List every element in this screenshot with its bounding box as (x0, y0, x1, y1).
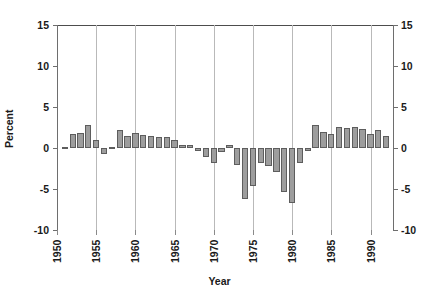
y-axis-label-right-0: 0 (401, 143, 407, 154)
bar-1972 (226, 145, 232, 148)
bar-1960 (132, 133, 138, 148)
x-tick-1990 (371, 230, 372, 235)
y-axis-label-left-5: 5 (21, 102, 49, 113)
x-tick-1975 (253, 230, 254, 235)
bar-1971 (218, 148, 224, 152)
y-tick-left-5 (53, 107, 58, 108)
y-axis-label-right-15: 15 (401, 20, 413, 31)
bar-1951 (62, 147, 68, 149)
zero-baseline (57, 25, 394, 26)
bar-1966 (179, 145, 185, 148)
bar-1973 (234, 148, 240, 165)
bar-1988 (352, 127, 358, 148)
bar-1965 (171, 140, 177, 148)
y-axis-label-left--5: -5 (21, 184, 49, 195)
x-tick-1965 (175, 230, 176, 235)
bar-1954 (85, 125, 91, 148)
bar-1967 (187, 145, 193, 148)
bar-1975 (250, 148, 256, 186)
y-tick-right--5 (393, 189, 398, 190)
gridline-1965 (175, 25, 176, 230)
y-tick-left-10 (53, 66, 58, 67)
bar-1981 (297, 148, 303, 163)
bar-1958 (117, 130, 123, 148)
bar-1963 (156, 137, 162, 149)
gridline-1990 (371, 25, 372, 230)
bar-1956 (101, 148, 107, 154)
bar-1980 (289, 148, 295, 203)
y-axis-label-right-10: 10 (401, 61, 413, 72)
bar-1985 (328, 134, 334, 148)
x-tick-1950 (57, 230, 58, 235)
y-axis-label-right--5: -5 (401, 184, 410, 195)
bar-1976 (258, 148, 264, 163)
x-axis-title: Year (0, 276, 439, 287)
bar-1987 (344, 128, 350, 149)
bar-1953 (77, 133, 83, 148)
bar-1991 (375, 130, 381, 148)
bar-1979 (281, 148, 287, 192)
y-axis-title: Percent (4, 109, 15, 148)
x-axis-label-1960: 1960 (130, 240, 141, 263)
x-axis-label-1950: 1950 (52, 240, 63, 263)
x-axis-label-1965: 1965 (170, 240, 181, 263)
bar-1961 (140, 135, 146, 148)
bar-1989 (359, 129, 365, 148)
y-tick-left--5 (53, 189, 58, 190)
bar-1955 (93, 140, 99, 148)
y-axis-label-left-15: 15 (21, 20, 49, 31)
bar-1962 (148, 136, 154, 148)
bar-1957 (109, 147, 115, 149)
bar-1984 (320, 132, 326, 148)
y-tick-right--10 (393, 230, 398, 231)
x-axis-label-1975: 1975 (248, 240, 259, 263)
y-axis-label-left-10: 10 (21, 61, 49, 72)
gridline-1975 (253, 25, 254, 230)
bar-1982 (305, 148, 311, 151)
y-tick-right-15 (393, 25, 398, 26)
y-axis-right-line (393, 25, 394, 230)
x-axis-label-1985: 1985 (326, 240, 337, 263)
x-tick-1985 (331, 230, 332, 235)
bar-1968 (195, 148, 201, 151)
y-axis-left-line (57, 25, 58, 230)
bar-1978 (273, 148, 279, 172)
bar-chart: Percent Year 151510105500-5-5-10-1019501… (0, 0, 439, 298)
y-axis-label-right-5: 5 (401, 102, 407, 113)
y-tick-right-10 (393, 66, 398, 67)
gridline-1985 (331, 25, 332, 230)
gridline-1955 (96, 25, 97, 230)
y-tick-left-15 (53, 25, 58, 26)
y-tick-left-0 (53, 148, 58, 149)
y-tick-right-5 (393, 107, 398, 108)
bar-1959 (124, 136, 130, 148)
y-axis-label-right--10: -10 (401, 225, 416, 236)
x-axis-label-1970: 1970 (209, 240, 220, 263)
bar-1964 (164, 137, 170, 148)
x-tick-1955 (96, 230, 97, 235)
x-axis-label-1955: 1955 (91, 240, 102, 263)
bar-1983 (312, 125, 318, 148)
y-axis-label-left-0: 0 (21, 143, 49, 154)
y-tick-right-0 (393, 148, 398, 149)
bar-1977 (265, 148, 271, 166)
x-tick-1980 (292, 230, 293, 235)
x-axis-label-1980: 1980 (287, 240, 298, 263)
bar-1992 (383, 136, 389, 148)
bar-1952 (70, 134, 76, 148)
bar-1970 (211, 148, 217, 163)
bar-1974 (242, 148, 248, 199)
plot-area (57, 25, 394, 230)
y-axis-label-left--10: -10 (21, 225, 49, 236)
gridline-1970 (214, 25, 215, 230)
bar-1986 (336, 127, 342, 148)
gridline-1960 (135, 25, 136, 230)
x-tick-1960 (135, 230, 136, 235)
x-axis-label-1990: 1990 (366, 240, 377, 263)
bar-1969 (203, 148, 209, 157)
bar-1990 (367, 134, 373, 148)
x-tick-1970 (214, 230, 215, 235)
